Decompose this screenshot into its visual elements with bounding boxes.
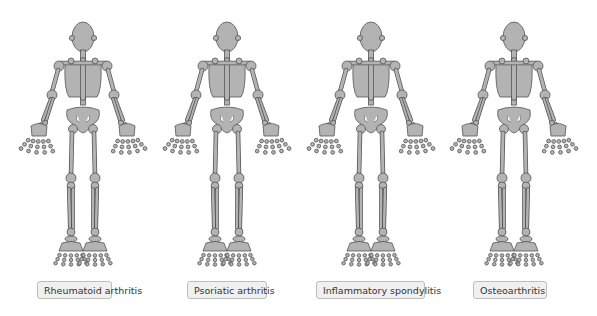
label-rheumatoid-arthritis: Rheumatoid arthritis (37, 281, 112, 299)
label-osteoarthritis: Osteoarthritis (473, 281, 547, 299)
skeleton-figure-icon (9, 0, 158, 280)
label-inflammatory-spondylitis: Inflammatory spondylitis (316, 281, 425, 299)
panel-inflammatory-spondylitis: Inflammatory spondylitis (297, 0, 446, 316)
label-psoriatic-arthritis: Psoriatic arthritis (187, 281, 267, 299)
skeleton-figure-icon (153, 0, 302, 280)
panel-osteoarthritis: Osteoarthritis (440, 0, 589, 316)
skeleton-figure-icon (440, 0, 589, 280)
panel-psoriatic-arthritis: Psoriatic arthritis (153, 0, 302, 316)
panel-rheumatoid-arthritis: Rheumatoid arthritis (9, 0, 158, 316)
skeleton-figure-icon (297, 0, 446, 280)
